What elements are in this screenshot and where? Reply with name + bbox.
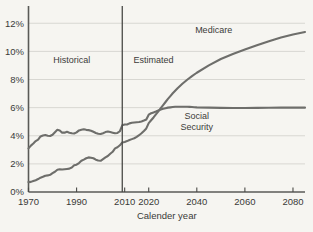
x-axis-title: Calender year <box>137 210 197 221</box>
y-axis-tick-label: 8% <box>10 74 24 85</box>
chart-annotation-social: Social <box>185 111 210 121</box>
x-axis-tick-label: 2020 <box>138 196 159 207</box>
y-axis-tick-label: 6% <box>10 102 24 113</box>
chart-annotation-estimated: Estimated <box>134 55 174 65</box>
chart-annotation-historical: Historical <box>53 55 90 65</box>
gridlines-group <box>29 23 306 164</box>
x-axis-tick-label: 2080 <box>282 196 303 207</box>
x-axis-tick-label: 1970 <box>18 196 39 207</box>
chart-annotation-security: Security <box>181 122 214 132</box>
x-axis-tick-label: 2060 <box>234 196 255 207</box>
x-axis-tick-label: 1990 <box>66 196 87 207</box>
annotations-group: HistoricalEstimatedMedicareSocialSecurit… <box>53 25 232 132</box>
x-axis-tick-label: 2040 <box>186 196 207 207</box>
y-axis-tick-label: 4% <box>10 130 24 141</box>
x-axis-tick-labels: 1970199020102020204020602080 <box>18 196 304 207</box>
series-line-social-security <box>29 107 306 149</box>
x-axis-tick-label: 2010 <box>114 196 135 207</box>
y-axis-tick-label: 2% <box>10 158 24 169</box>
chart-annotation-medicare: Medicare <box>195 25 232 35</box>
y-axis-tick-label: 12% <box>5 18 25 29</box>
entitlement-spending-line-chart: 0%2%4%6%8%10%12% 19701990201020202040206… <box>0 0 313 232</box>
chart-container: 0%2%4%6%8%10%12% 19701990201020202040206… <box>0 0 313 232</box>
y-axis-tick-labels: 0%2%4%6%8%10%12% <box>5 18 25 198</box>
y-axis-tick-label: 10% <box>5 46 25 57</box>
